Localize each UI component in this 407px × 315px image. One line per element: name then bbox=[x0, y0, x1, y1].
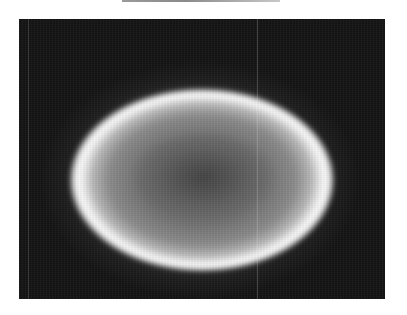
top-edge-strip bbox=[122, 0, 280, 2]
page bbox=[0, 0, 407, 315]
vertical-artifact-line bbox=[28, 19, 29, 299]
photo-frame bbox=[19, 19, 385, 299]
vertical-artifact-line bbox=[257, 19, 258, 299]
